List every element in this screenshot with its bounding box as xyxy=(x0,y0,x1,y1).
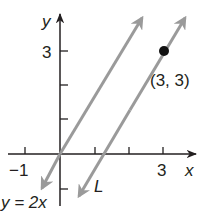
x-axis-label: x xyxy=(184,161,194,180)
y-tick-label-3: 3 xyxy=(42,43,51,62)
y-axis-label: y xyxy=(41,12,52,31)
point-3-3 xyxy=(159,46,169,56)
line-label-y-2x: y = 2x xyxy=(0,193,47,212)
point-label: (3, 3) xyxy=(150,71,190,90)
line-L-lower xyxy=(79,110,130,196)
line-y-equals-2x xyxy=(60,18,142,154)
line-label-L: L xyxy=(94,177,103,196)
x-tick-label-neg1: −1 xyxy=(9,161,28,180)
line-L xyxy=(130,18,185,110)
y-ticks xyxy=(60,51,68,189)
line-y-equals-2x-lower xyxy=(42,154,60,188)
x-ticks xyxy=(25,147,163,154)
coordinate-plane: y 3 −1 3 x (3, 3) y = 2x L xyxy=(0,0,200,214)
x-tick-label-3: 3 xyxy=(157,161,166,180)
